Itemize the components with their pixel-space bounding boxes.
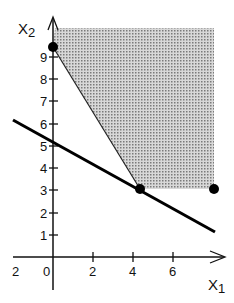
y-tick-label: 5 xyxy=(40,139,47,154)
vertex-point xyxy=(209,184,219,194)
x-tick-label: 2 xyxy=(12,264,19,279)
y-tick-label: 3 xyxy=(40,183,47,198)
x-tick-label: 4 xyxy=(129,264,136,279)
x-tick-label: 6 xyxy=(169,264,176,279)
feasible-region xyxy=(53,28,214,189)
y-tick-label: 8 xyxy=(40,72,47,87)
y-tick-label: 7 xyxy=(40,94,47,109)
y-tick-label: 1 xyxy=(40,228,47,243)
lp-graph: 1 2 3 4 5 6 7 8 9 2 0 2 4 6 X2 X1 xyxy=(0,0,234,303)
x-tick-label: 0 xyxy=(43,264,50,279)
y-axis-label: X2 xyxy=(18,20,35,40)
y-tick-label: 9 xyxy=(40,50,47,65)
y-tick-label: 6 xyxy=(40,117,47,132)
vertex-point xyxy=(48,42,58,52)
vertex-point xyxy=(135,184,145,194)
x-tick-label: 2 xyxy=(89,264,96,279)
x-axis-label: X1 xyxy=(208,276,225,296)
y-tick-label: 2 xyxy=(40,206,47,221)
y-tick-label: 4 xyxy=(40,161,47,176)
